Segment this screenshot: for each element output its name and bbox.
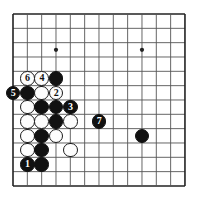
stone-black bbox=[135, 129, 149, 143]
stone-white bbox=[49, 129, 63, 143]
stone-black bbox=[20, 86, 34, 100]
stone-white bbox=[20, 129, 34, 143]
stone-white bbox=[63, 114, 77, 128]
stone-white-move-2: 2 bbox=[49, 86, 63, 100]
stone-black bbox=[34, 100, 48, 114]
stone-black bbox=[34, 129, 48, 143]
stone-black-move-1: 1 bbox=[20, 157, 34, 171]
stone-white bbox=[34, 86, 48, 100]
stone-black bbox=[49, 114, 63, 128]
move-number-label: 3 bbox=[68, 102, 73, 112]
move-number-label: 4 bbox=[39, 73, 44, 83]
star-point bbox=[54, 48, 58, 52]
stone-white bbox=[20, 143, 34, 157]
stone-white bbox=[63, 143, 77, 157]
stone-white-move-6: 6 bbox=[20, 71, 34, 85]
stone-black-move-3: 3 bbox=[63, 100, 77, 114]
stone-black bbox=[34, 143, 48, 157]
move-number-label: 6 bbox=[25, 73, 30, 83]
stone-black bbox=[34, 157, 48, 171]
star-point bbox=[140, 48, 144, 52]
stone-white-move-4: 4 bbox=[34, 71, 48, 85]
stone-white bbox=[20, 100, 34, 114]
go-board-diagram: 6452371 bbox=[0, 0, 208, 201]
stone-white bbox=[34, 114, 48, 128]
move-number-label: 7 bbox=[97, 116, 102, 126]
move-number-label: 1 bbox=[25, 159, 30, 169]
stone-black-move-5: 5 bbox=[6, 86, 20, 100]
stone-black bbox=[49, 71, 63, 85]
move-number-label: 2 bbox=[54, 88, 59, 98]
stone-black-move-7: 7 bbox=[92, 114, 106, 128]
move-number-label: 5 bbox=[11, 88, 16, 98]
stone-white bbox=[20, 114, 34, 128]
